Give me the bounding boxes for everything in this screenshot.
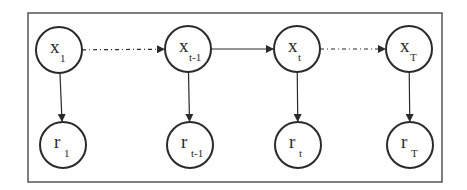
node-subscript: T (410, 51, 417, 63)
node-label: r (54, 131, 61, 152)
node-subscript: t (299, 147, 302, 159)
node-circle (387, 122, 433, 168)
node-label: r (401, 131, 408, 152)
node-subscript: 1 (64, 147, 70, 159)
node-xt-1: xt-1 (165, 26, 211, 72)
node-circle (275, 122, 321, 168)
node-rT: rT (387, 122, 433, 168)
node-circle (40, 122, 86, 168)
node-label: r (181, 131, 188, 152)
bayesian-network-diagram: x1xt-1xtxTr1rt-1rtrT (0, 0, 467, 190)
diagram-frame (28, 13, 442, 182)
edges-group (60, 49, 410, 121)
node-subscript: t-1 (189, 51, 201, 63)
edge-xT-to-rT (409, 72, 410, 121)
node-subscript: t (298, 51, 301, 63)
node-label: x (400, 35, 410, 56)
node-rt-1: rt-1 (167, 122, 213, 168)
edge-x1-to-xt-1 (82, 49, 164, 50)
node-subscript: T (411, 147, 418, 159)
node-label: x (50, 36, 60, 57)
node-xt: xt (274, 26, 320, 72)
node-x1: x1 (36, 27, 82, 73)
edge-xt-1-to-rt-1 (188, 72, 189, 121)
node-label: r (289, 131, 296, 152)
node-subscript: 1 (60, 52, 66, 64)
node-label: x (288, 35, 298, 56)
nodes-group: x1xt-1xtxTr1rt-1rtrT (36, 26, 433, 168)
node-xT: xT (386, 26, 432, 72)
node-subscript: t-1 (191, 147, 203, 159)
edge-xt-to-rt (297, 72, 298, 121)
node-r1: r1 (40, 122, 86, 168)
node-rt: rt (275, 122, 321, 168)
node-label: x (179, 35, 189, 56)
node-circle (167, 122, 213, 168)
edge-x1-to-r1 (60, 73, 62, 121)
